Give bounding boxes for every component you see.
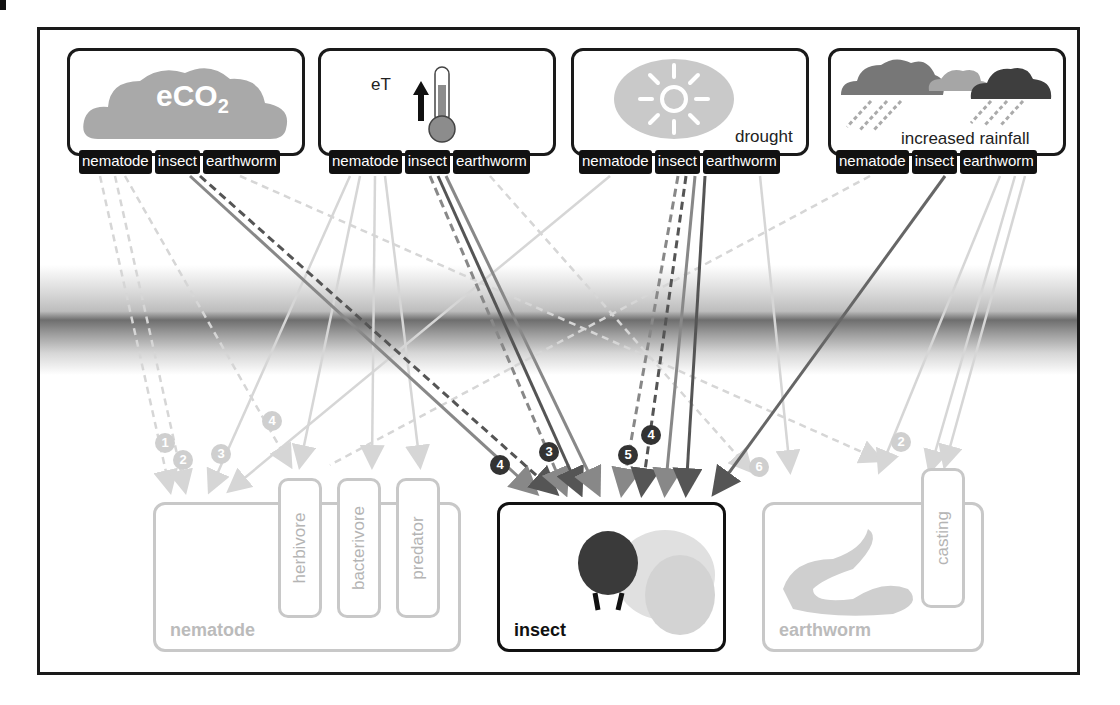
effect-badge: 3 [539,442,559,462]
effect-badge: 4 [490,455,510,475]
organism-insect-box: insect [497,502,726,652]
effect-badge: 2 [891,432,911,452]
effect-badge: 4 [262,411,282,431]
insect-larva-icon [570,515,720,645]
organism-earthworm-label: earthworm [779,620,871,641]
effect-badge: 6 [749,457,769,477]
organism-nematode-label: nematode [170,620,255,641]
effect-badge: 5 [618,445,638,465]
nematode-subgroup-herbivore: herbivore [278,478,322,618]
organism-insect-label: insect [514,620,566,641]
earthworm-subgroup-casting: casting [921,468,965,608]
earthworm-icon [773,519,923,619]
nematode-subgroup-predator: predator [396,478,440,618]
effect-badge: 1 [155,433,175,453]
nematode-subgroup-bacterivore: bacterivore [337,478,381,618]
effect-badge: 2 [173,450,193,470]
effect-badge: 3 [211,444,231,464]
effect-badge: 4 [641,425,661,445]
